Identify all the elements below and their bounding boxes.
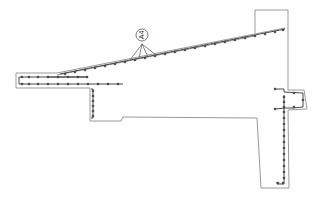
bracket-rebar bbox=[274, 88, 304, 110]
callout-label: A4 bbox=[138, 31, 145, 40]
left-slab-rebar bbox=[19, 76, 123, 85]
concrete-outline bbox=[16, 10, 307, 188]
top-slope-rebar bbox=[60, 29, 285, 75]
drawing-canvas: A4 bbox=[0, 0, 328, 202]
left-downstand-rebar bbox=[91, 89, 94, 118]
section-drawing: A4 bbox=[0, 0, 328, 202]
